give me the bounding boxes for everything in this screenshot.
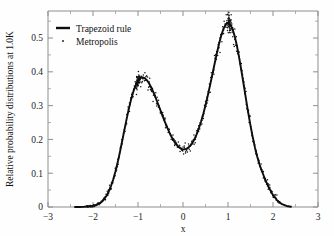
y-tick-label: 0 <box>38 202 43 212</box>
metropolis-point <box>136 94 138 96</box>
metropolis-point <box>184 142 186 144</box>
metropolis-point <box>147 76 149 78</box>
y-tick-label: 0.5 <box>31 33 43 43</box>
metropolis-point <box>146 75 148 77</box>
metropolis-point <box>141 82 143 84</box>
metropolis-point <box>190 150 192 152</box>
metropolis-point <box>233 44 235 46</box>
metropolis-point <box>228 20 230 22</box>
metropolis-point <box>230 22 232 24</box>
metropolis-point <box>182 150 184 152</box>
x-tick-label: −3 <box>43 212 53 222</box>
metropolis-point <box>137 76 139 78</box>
metropolis-point <box>225 14 227 16</box>
metropolis-point <box>210 92 212 94</box>
legend-swatch-metropolis <box>62 40 64 42</box>
metropolis-point <box>138 71 140 73</box>
legend-label-trapezoid: Trapezoid rule <box>76 24 131 34</box>
metropolis-point <box>136 88 138 90</box>
trapezoid-rule-curve <box>75 23 291 207</box>
legend-label-metropolis: Metropolis <box>76 37 118 47</box>
x-tick-label: 3 <box>316 212 321 222</box>
x-axis-title: x <box>181 224 186 234</box>
metropolis-point <box>193 143 195 145</box>
metropolis-point <box>183 153 185 155</box>
metropolis-point <box>276 194 278 196</box>
metropolis-point <box>182 146 184 148</box>
metropolis-point <box>142 81 144 83</box>
metropolis-point <box>185 152 187 154</box>
metropolis-point <box>140 86 142 88</box>
metropolis-point <box>227 27 229 29</box>
metropolis-point <box>230 14 232 16</box>
metropolis-point <box>234 28 236 30</box>
metropolis-point <box>156 105 158 107</box>
metropolis-point <box>227 30 229 32</box>
legend: Trapezoid rule Metropolis <box>56 24 131 47</box>
metropolis-point <box>172 134 174 136</box>
metropolis-point <box>229 32 231 34</box>
metropolis-point <box>149 77 151 79</box>
metropolis-point <box>221 41 223 43</box>
metropolis-point <box>226 20 228 22</box>
metropolis-point <box>143 74 145 76</box>
y-tick-label: 0.2 <box>31 135 43 145</box>
metropolis-point <box>223 21 225 23</box>
metropolis-point <box>178 141 180 143</box>
metropolis-point <box>193 134 195 136</box>
metropolis-point <box>228 12 230 14</box>
figure-container: −3−2−10123 00.10.20.30.40.5 Trapezoid ru… <box>0 0 334 236</box>
x-tick-label: 0 <box>181 212 186 222</box>
metropolis-point <box>184 147 186 149</box>
metropolis-point <box>230 20 232 22</box>
y-axis-ticks: 00.10.20.30.40.5 <box>31 21 318 212</box>
metropolis-point <box>185 151 187 153</box>
metropolis-point <box>194 142 196 144</box>
metropolis-point <box>139 82 141 84</box>
metropolis-point <box>158 100 160 102</box>
metropolis-point <box>229 18 231 20</box>
metropolis-point <box>229 28 231 30</box>
metropolis-point <box>136 77 138 79</box>
x-tick-label: −2 <box>88 212 98 222</box>
y-axis-title: Relative probability distributions at 1.… <box>5 31 15 187</box>
x-tick-label: 2 <box>271 212 276 222</box>
x-tick-label: 1 <box>226 212 231 222</box>
metropolis-point <box>155 92 157 94</box>
metropolis-point <box>267 179 269 181</box>
x-tick-label: −1 <box>133 212 143 222</box>
metropolis-point <box>187 151 189 153</box>
y-tick-label: 0.1 <box>31 169 43 179</box>
metropolis-point <box>232 36 234 38</box>
probability-distribution-chart: −3−2−10123 00.10.20.30.40.5 Trapezoid ru… <box>0 0 334 236</box>
metropolis-point <box>275 194 277 196</box>
metropolis-point <box>227 18 229 20</box>
metropolis-point <box>269 184 271 186</box>
metropolis-point <box>188 143 190 145</box>
metropolis-point <box>144 72 146 74</box>
metropolis-point <box>188 149 190 151</box>
metropolis-point <box>147 89 149 91</box>
metropolis-point <box>136 86 138 88</box>
metropolis-point <box>138 74 140 76</box>
metropolis-point <box>184 145 186 147</box>
metropolis-point <box>152 101 154 103</box>
metropolis-point <box>219 52 221 54</box>
metropolis-point <box>214 55 216 57</box>
metropolis-point <box>228 25 230 27</box>
metropolis-point <box>179 151 181 153</box>
y-tick-label: 0.4 <box>31 67 43 77</box>
metropolis-point <box>233 46 235 48</box>
metropolis-point <box>228 15 230 17</box>
y-tick-label: 0.3 <box>31 101 43 111</box>
